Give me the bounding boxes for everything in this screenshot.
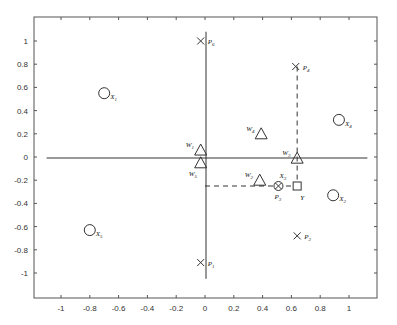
x-marker-p2: [294, 232, 301, 239]
label-x5: X5: [95, 230, 103, 239]
label-p4: P4: [302, 64, 310, 73]
y-tick-label: -0.2: [14, 176, 28, 185]
y-tick-label: -0.6: [14, 223, 28, 232]
label-w1: W1: [186, 141, 194, 150]
axis-ticks: -1-0.8-0.6-0.4-0.200.20.40.60.8110.80.60…: [14, 17, 377, 313]
label-x3: X3: [278, 172, 286, 181]
label-w2: W2: [245, 171, 254, 180]
label-p3: P3: [273, 193, 281, 202]
x-tick-label: -1: [57, 304, 65, 313]
x-tick-label: -0.8: [83, 304, 97, 313]
x-tick-label: -0.4: [141, 304, 155, 313]
x-marker-p6: [197, 38, 204, 45]
label-y: Y: [300, 194, 305, 202]
label-x1: X1: [109, 93, 117, 102]
scatter-chart: -1-0.8-0.6-0.4-0.200.20.40.60.8110.80.60…: [0, 0, 397, 325]
label-p1: P1: [207, 260, 215, 269]
x-tick-label: 0.2: [228, 304, 240, 313]
label-w4: W4: [246, 125, 255, 134]
y-tick-label: 0.4: [17, 107, 29, 116]
y-tick-label: 1: [24, 37, 29, 46]
circle-marker-x5: [84, 225, 95, 236]
y-tick-label: -0.4: [14, 199, 28, 208]
label-w5: W5: [189, 170, 198, 179]
x-tick-label: 0.8: [315, 304, 327, 313]
y-tick-label: -0.8: [14, 246, 28, 255]
circle-marker-x4: [333, 114, 344, 125]
circle-marker-x1: [99, 88, 110, 99]
x-marker-p4: [292, 63, 299, 70]
circle-marker-x2: [328, 190, 339, 201]
y-tick-label: -1: [21, 269, 29, 278]
label-x4: X4: [344, 120, 352, 129]
label-p6: P6: [207, 38, 215, 47]
y-tick-label: 0: [24, 153, 29, 162]
x-tick-label: 0: [203, 304, 208, 313]
x-tick-label: 1: [347, 304, 352, 313]
x-marker-p1: [197, 259, 204, 266]
y-tick-label: 0.2: [17, 130, 29, 139]
y-tick-label: 0.8: [17, 60, 29, 69]
label-x2: X2: [338, 195, 346, 204]
label-p2: P2: [303, 233, 311, 242]
square-marker-y: [293, 182, 301, 190]
triangle-marker-w1: [195, 144, 207, 155]
y-tick-label: 0.6: [17, 83, 29, 92]
triangle-marker-w2: [254, 174, 266, 185]
triangle-marker-w4: [255, 128, 267, 139]
x-tick-label: -0.2: [169, 304, 183, 313]
label-w3: W3: [282, 149, 291, 158]
x-tick-label: 0.4: [257, 304, 269, 313]
x-tick-label: -0.6: [112, 304, 126, 313]
data-points: X1X2X4X5X3P3P6P4P2P1W1W5W4W3W2Y: [84, 38, 352, 269]
x-tick-label: 0.6: [286, 304, 298, 313]
